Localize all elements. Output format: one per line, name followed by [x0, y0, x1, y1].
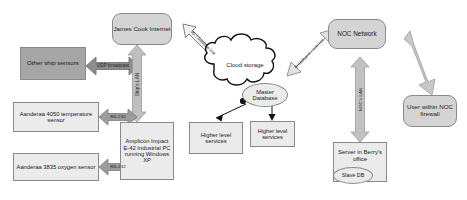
- node-user-noc-firewall[interactable]: User within NOC firewall: [403, 95, 457, 127]
- node-james-cook-internet[interactable]: James Cook Internet: [112, 13, 172, 45]
- node-higher-level-services-2[interactable]: Higher level services: [250, 121, 295, 147]
- node-label: Aanderaa 4050 temperature sensor: [16, 111, 96, 124]
- arrow-nocs-lan: [351, 57, 369, 142]
- node-label: NOC Network: [337, 30, 376, 37]
- node-slave-db[interactable]: Slave DB: [333, 167, 373, 184]
- node-noc-network[interactable]: NOC Network: [328, 19, 386, 49]
- node-label: User within NOC firewall: [404, 104, 456, 118]
- arrow-udp-broadcast: [86, 57, 139, 75]
- arrow-broadband-internet: [287, 29, 334, 76]
- arrow-ships-lan: [128, 45, 146, 122]
- node-other-ship-sensors[interactable]: Other ship sensors: [20, 47, 86, 80]
- node-aanderaa-4050[interactable]: Aanderaa 4050 temperature sensor: [13, 102, 99, 132]
- node-label: Cloud storage: [226, 62, 263, 69]
- node-aanderaa-3835[interactable]: Aanderaa 3835 oxygen sensor: [13, 153, 99, 181]
- node-label: Amplicon Impact E-42 Industrial PC runni…: [123, 138, 171, 164]
- node-label: James Cook Internet: [113, 26, 170, 33]
- arrow-master-to-hls1: [216, 104, 246, 122]
- node-cloud-storage-label[interactable]: Cloud storage: [216, 58, 274, 72]
- node-label: Slave DB: [342, 172, 364, 178]
- node-label: Other ship sensors: [27, 60, 79, 67]
- node-label: Higher level services: [190, 132, 242, 145]
- node-label: Server in Berry's office: [334, 149, 386, 162]
- node-label: Aanderaa 3835 oxygen sensor: [17, 164, 96, 170]
- node-amplicon-pc[interactable]: Amplicon Impact E-42 Industrial PC runni…: [120, 122, 174, 180]
- node-label: Master Database: [243, 89, 287, 102]
- node-higher-level-services-1[interactable]: Higher level services: [189, 122, 243, 154]
- arrow-noc-to-user: [404, 31, 435, 95]
- node-label: Higher level services: [251, 128, 294, 141]
- node-master-database[interactable]: Master Database: [242, 83, 288, 107]
- diagram-canvas: Other ship sensors James Cook Internet A…: [0, 0, 467, 200]
